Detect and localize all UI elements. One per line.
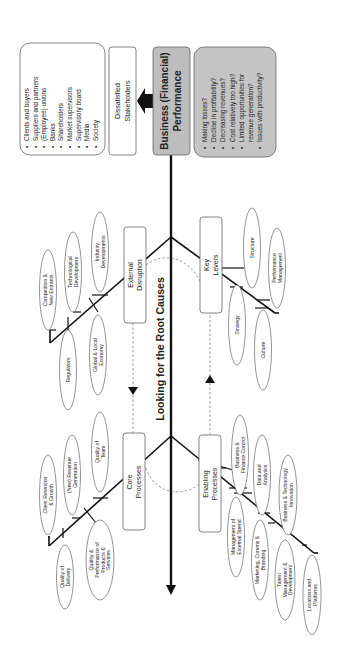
cause-ellipse: TalentManagement &Development bbox=[275, 540, 295, 620]
cause-label: New Entrants bbox=[48, 274, 54, 306]
cause-label: Team bbox=[100, 446, 106, 459]
bullet-icon: • bbox=[75, 146, 82, 148]
stakeholder-item: Supervisory board bbox=[75, 89, 83, 141]
main-spine bbox=[166, 155, 176, 595]
cause-ellipse: Culture bbox=[255, 310, 272, 390]
bullet-icon: • bbox=[32, 146, 39, 148]
bullet-icon: • bbox=[201, 147, 208, 149]
bullet-icon: • bbox=[92, 146, 99, 148]
svg-text:Stakeholders: Stakeholders bbox=[124, 80, 131, 121]
cause-ellipse: Data andAnalytics bbox=[254, 435, 271, 515]
svg-text:Processes: Processes bbox=[135, 465, 142, 498]
cause-label: Delivery bbox=[65, 567, 71, 586]
category-enabling-processes: Enabling Processes bbox=[199, 435, 221, 532]
bullet-icon: • bbox=[66, 146, 73, 148]
impact-arrow-icon bbox=[137, 88, 153, 114]
cause-label: Finance Control bbox=[240, 437, 246, 474]
cause-ellipse: Competition &New Entrants bbox=[40, 250, 57, 330]
dissatisfied-stakeholders-box: Dissatisfied Stakeholders bbox=[109, 47, 136, 155]
up-arrow-icon bbox=[205, 375, 215, 383]
bullet-icon: • bbox=[57, 146, 64, 148]
cause-label: Culture bbox=[260, 342, 266, 359]
issue-item: Issues with productivity? bbox=[256, 72, 264, 142]
svg-text:External: External bbox=[127, 262, 134, 288]
bullet-icon: • bbox=[210, 147, 217, 149]
cause-ellipses: Competition &New EntrantsTechnologicalDe… bbox=[40, 208, 322, 635]
cause-ellipse: IndustryDevelopments bbox=[92, 212, 109, 292]
cause-label: Development bbox=[73, 256, 79, 287]
svg-text:Business (Financial): Business (Financial) bbox=[159, 52, 170, 149]
category-core-processes: Core Processes bbox=[123, 433, 145, 530]
bullet-icon: • bbox=[256, 147, 263, 149]
svg-text:Levers: Levers bbox=[212, 254, 219, 276]
cause-label: Analytics bbox=[262, 464, 268, 485]
stakeholder-item: Clients and buyers bbox=[23, 88, 31, 141]
svg-text:Performance: Performance bbox=[172, 70, 183, 132]
cause-label: Platforms bbox=[312, 584, 318, 606]
cause-ellipse: Quality ofTeam bbox=[92, 412, 109, 492]
spine-label: Looking for the Root Causes bbox=[154, 277, 166, 421]
cause-label: Structure bbox=[249, 237, 255, 258]
cause-label: Management bbox=[277, 252, 283, 283]
svg-text:Dissatisfied: Dissatisfied bbox=[114, 83, 121, 119]
svg-text:Enabling: Enabling bbox=[202, 470, 210, 497]
cause-label: Developments bbox=[100, 235, 106, 269]
issue-item: Cost relatively too high? bbox=[229, 73, 237, 142]
bullet-icon: • bbox=[40, 146, 47, 148]
issue-item: revenue generation? bbox=[247, 83, 255, 142]
stakeholder-item: Society bbox=[92, 119, 100, 141]
cause-ellipse: Business & TechnologyInnovation bbox=[279, 455, 297, 535]
bullet-icon: • bbox=[238, 147, 245, 149]
cause-ellipse: Quality &Performance ofProducts &Service… bbox=[86, 520, 114, 600]
business-performance-box: Business (Financial) Performance bbox=[153, 47, 190, 155]
svg-text:Key: Key bbox=[203, 258, 211, 271]
cause-ellipse: (New) RevenueGeneration bbox=[64, 435, 81, 515]
bullet-icon: • bbox=[83, 146, 90, 148]
cause-label: External Spend bbox=[236, 519, 242, 555]
cause-ellipse: Client Retention& Growth bbox=[40, 455, 57, 535]
category-key-levers: Key Levers bbox=[200, 217, 222, 313]
cause-ellipse: Structure bbox=[244, 208, 261, 288]
cause-ellipse: Marketing, Comms &Branding bbox=[252, 520, 269, 600]
stakeholder-item: Banks bbox=[49, 123, 56, 141]
stakeholder-item: Suppliers and partners bbox=[32, 77, 40, 141]
cause-label: Economy bbox=[98, 344, 104, 366]
cause-ellipse: Global & LocalEconomy bbox=[90, 315, 107, 395]
fishbone-diagram: Looking for the Root Causes Dissatisfied… bbox=[0, 0, 337, 648]
stakeholder-item: (Employee) unions bbox=[40, 88, 48, 141]
svg-text:Disruption: Disruption bbox=[136, 259, 144, 291]
svg-text:Processes: Processes bbox=[211, 467, 218, 500]
cause-label: Regulators bbox=[65, 357, 71, 382]
issue-item: Limited opportunities for bbox=[238, 73, 246, 142]
cause-ellipse: Business &Finance Control bbox=[232, 415, 249, 495]
cause-ellipse: Quality ofDelivery bbox=[57, 545, 74, 609]
stakeholder-item: Shareholders bbox=[57, 103, 64, 141]
category-external-disruption: External Disruption bbox=[124, 227, 146, 323]
issue-item: Decline in profitability? bbox=[210, 78, 218, 142]
cause-ellipse: PerformanceManagement bbox=[269, 228, 286, 308]
cause-label: Services bbox=[105, 550, 111, 570]
cause-ellipse: Locations andPlatforms bbox=[303, 555, 321, 635]
spine-arrowhead-icon bbox=[166, 585, 176, 595]
bullet-icon: • bbox=[219, 147, 226, 149]
down-arrow-icon bbox=[128, 387, 138, 395]
cause-ellipse: Strategy bbox=[229, 285, 246, 365]
stakeholder-item: Media bbox=[83, 123, 90, 141]
cause-label: Innovation bbox=[288, 483, 294, 507]
svg-text:Core: Core bbox=[126, 474, 133, 489]
cause-label: & Growth bbox=[48, 484, 54, 506]
issue-item: Decreasing revenues? bbox=[219, 78, 227, 142]
bullet-icon: • bbox=[229, 147, 236, 149]
cause-label: Strategy bbox=[234, 315, 240, 335]
bullet-icon: • bbox=[23, 146, 30, 148]
cause-label: Branding bbox=[260, 550, 266, 571]
cause-label: Development bbox=[287, 564, 293, 595]
issue-item: Making losses? bbox=[201, 98, 209, 142]
cause-label: Generation bbox=[72, 462, 78, 488]
cause-ellipse: TechnologicalDevelopment bbox=[65, 232, 82, 312]
bullet-icon: • bbox=[49, 146, 56, 148]
cause-ellipse: Regulators bbox=[60, 330, 77, 410]
stakeholder-item: Market supervisors bbox=[66, 87, 74, 141]
cause-ellipse: Management ofExternal Spend bbox=[228, 497, 245, 577]
